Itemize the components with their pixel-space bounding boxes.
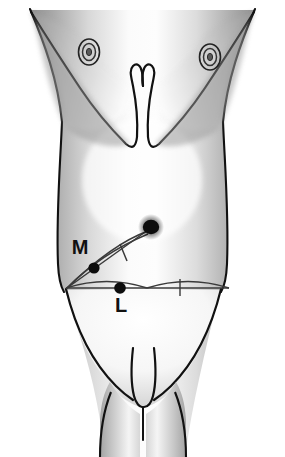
anatomy-illustration-svg: M L: [0, 0, 285, 457]
umbilicus-dot: [143, 220, 159, 234]
landmark-l: [114, 282, 126, 294]
landmark-umbilicus: [138, 214, 164, 240]
landmark-midpoint-m: [88, 262, 99, 273]
anatomical-figure: M L: [0, 0, 285, 457]
nipple-papilla-right: [207, 53, 212, 60]
nipple-papilla-left: [86, 48, 91, 55]
label-m: M: [72, 236, 89, 258]
midpoint-m-dot: [88, 262, 99, 273]
landmark-l-dot: [114, 282, 126, 294]
label-l: L: [115, 294, 127, 316]
